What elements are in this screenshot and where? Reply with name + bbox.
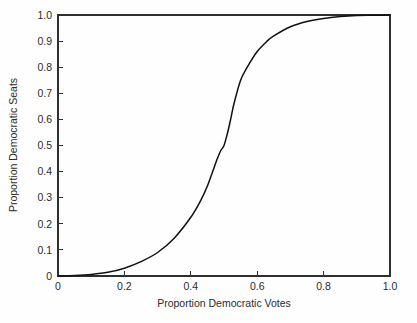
x-tick-label: 0.6 bbox=[250, 280, 265, 292]
y-tick-label: 0 bbox=[46, 270, 52, 282]
x-tick-label: 0.2 bbox=[117, 280, 132, 292]
y-tick-label: 0.2 bbox=[37, 218, 52, 230]
y-tick-label: 0.4 bbox=[37, 165, 52, 177]
y-tick-label: 0.5 bbox=[37, 139, 52, 151]
x-tick-label: 0.8 bbox=[316, 280, 331, 292]
seats-votes-curve bbox=[58, 15, 390, 276]
y-tick-label: 1.0 bbox=[37, 9, 52, 21]
y-tick-label: 0.7 bbox=[37, 87, 52, 99]
x-axis-title: Proportion Democratic Votes bbox=[157, 297, 291, 309]
y-tick-label: 0.1 bbox=[37, 244, 52, 256]
y-tick-label: 0.3 bbox=[37, 191, 52, 203]
x-tick-label: 0 bbox=[55, 280, 61, 292]
y-tick-label: 0.6 bbox=[37, 113, 52, 125]
y-tick-label: 0.9 bbox=[37, 35, 52, 47]
chart-svg: 00.20.40.60.81.0 00.10.20.30.40.50.60.70… bbox=[0, 0, 417, 323]
figure-container: 00.20.40.60.81.0 00.10.20.30.40.50.60.70… bbox=[0, 0, 417, 323]
y-axis-ticks: 00.10.20.30.40.50.60.70.80.91.0 bbox=[37, 9, 63, 282]
x-tick-label: 1.0 bbox=[383, 280, 398, 292]
y-axis-title: Proportion Democratic Seats bbox=[7, 78, 19, 212]
y-tick-label: 0.8 bbox=[37, 61, 52, 73]
x-axis-ticks: 00.20.40.60.81.0 bbox=[55, 271, 397, 292]
x-tick-label: 0.4 bbox=[183, 280, 198, 292]
